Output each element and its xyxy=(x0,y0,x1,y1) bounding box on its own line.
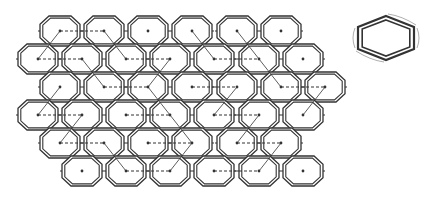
hexagon-molecule xyxy=(126,16,170,46)
molecules xyxy=(16,16,347,186)
hexagon-molecule xyxy=(259,16,303,46)
inset-arc xyxy=(417,28,419,48)
center-dot xyxy=(280,30,283,33)
hexagon-molecule xyxy=(60,156,104,186)
lattice-diagram xyxy=(0,0,431,203)
lattice-svg xyxy=(0,0,431,203)
inset-molecule xyxy=(353,14,419,62)
inset-hexagon-outer xyxy=(358,16,414,60)
center-dot xyxy=(302,58,305,61)
hexagon-molecule xyxy=(281,156,325,186)
center-dot xyxy=(147,30,150,33)
hexagon-molecule xyxy=(281,44,325,74)
inset-arc xyxy=(353,28,355,48)
center-dot xyxy=(81,170,84,173)
center-dot xyxy=(302,170,305,173)
